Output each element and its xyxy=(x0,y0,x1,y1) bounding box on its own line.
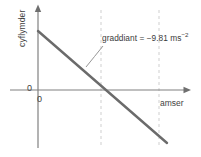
gradient-annotation-prefix: graddiant = xyxy=(102,33,147,43)
x-axis-origin-label: 0 xyxy=(37,95,42,104)
gradient-annotation-unit: ms xyxy=(168,33,182,43)
gradient-annotation: graddiant = −9.81 ms−2 xyxy=(102,34,189,42)
x-axis-title: amser xyxy=(160,99,184,108)
gradient-annotation-exponent: −2 xyxy=(181,31,188,38)
gradient-annotation-value: −9.81 xyxy=(147,33,168,43)
y-axis-title: cyflymder xyxy=(18,0,27,58)
graph-labels-layer: cyflymder amser 0 0 graddiant = −9.81 ms… xyxy=(0,0,201,157)
velocity-time-graph-figure: cyflymder amser 0 0 graddiant = −9.81 ms… xyxy=(0,0,201,157)
y-axis-origin-label: 0 xyxy=(27,84,32,93)
